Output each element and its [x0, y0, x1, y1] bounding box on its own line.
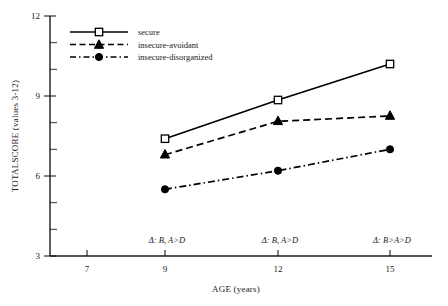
chart-figure: 12 9 6 3 7 9 12 15 TOTALSCORE (values 3-… — [0, 0, 448, 306]
legend: secure insecure-avoidant insecure-disorg… — [70, 27, 213, 62]
legend-item-insecure-avoidant: insecure-avoidant — [70, 40, 199, 50]
line-chart: 12 9 6 3 7 9 12 15 TOTALSCORE (values 3-… — [0, 0, 448, 306]
x-tick-label-7: 7 — [85, 264, 90, 274]
axis-group: 12 9 6 3 7 9 12 15 TOTALSCORE (values 3-… — [10, 11, 432, 294]
legend-item-insecure-disorganized: insecure-disorganized — [70, 52, 213, 62]
series-insecure-disorganized — [161, 146, 393, 193]
series-insecure-avoidant — [160, 111, 394, 158]
y-tick-label-6: 6 — [36, 171, 41, 181]
y-tick-label-9: 9 — [36, 91, 41, 101]
annotation-age-9: Δ: B, A>D — [148, 235, 186, 245]
y-tick-label-3: 3 — [36, 251, 41, 261]
x-tick-label-9: 9 — [163, 264, 168, 274]
data-point-secure-15 — [386, 60, 393, 67]
annotation-age-15: Δ: B>A>D — [372, 235, 412, 245]
x-axis-title: AGE (years) — [212, 284, 260, 294]
series-secure — [161, 60, 393, 142]
data-point-secure-9 — [161, 135, 168, 142]
legend-label-insecure-disorganized: insecure-disorganized — [138, 52, 213, 62]
x-tick-label-12: 12 — [274, 264, 283, 274]
data-point-disorganized-15 — [386, 146, 393, 153]
plot-annotations: Δ: B, A>D Δ: B, A>D Δ: B>A>D — [148, 235, 412, 245]
legend-label-secure: secure — [138, 27, 160, 37]
legend-label-insecure-avoidant: insecure-avoidant — [138, 40, 199, 50]
data-point-disorganized-9 — [161, 186, 168, 193]
legend-marker-filled-circle-icon — [95, 53, 102, 60]
y-tick-label-12: 12 — [31, 11, 40, 21]
legend-item-secure: secure — [70, 27, 160, 37]
y-axis-minor-ticks — [50, 43, 57, 230]
x-tick-label-15: 15 — [386, 264, 396, 274]
annotation-age-12: Δ: B, A>D — [261, 235, 299, 245]
x-axis-ticks — [87, 250, 390, 256]
data-point-disorganized-12 — [274, 167, 281, 174]
data-point-avoidant-15 — [385, 111, 394, 120]
data-point-secure-12 — [274, 96, 281, 103]
legend-marker-open-square-icon — [95, 28, 102, 35]
y-axis-title: TOTALSCORE (values 3-12) — [10, 80, 20, 192]
